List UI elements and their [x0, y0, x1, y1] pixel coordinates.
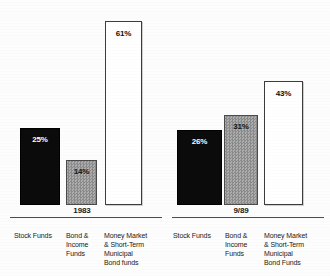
- category-label-stock-funds: Stock Funds: [173, 231, 225, 240]
- bar-989-stock-funds[interactable]: 26%: [177, 130, 222, 205]
- bar-1983-money-market-municipal[interactable]: 61%: [105, 21, 142, 205]
- bar-1983-stock-funds[interactable]: 25%: [20, 128, 60, 205]
- axis-baseline-989: [172, 217, 324, 218]
- axis-baseline-1983: [10, 217, 162, 218]
- chart-panel-1983: 25% 14% 61% 1983 Stock Funds Bond & Inco…: [0, 0, 168, 276]
- period-label-989: 9/89: [215, 206, 267, 215]
- bar-value-label: 14%: [67, 167, 96, 176]
- bar-989-money-market-municipal[interactable]: 43%: [264, 81, 303, 205]
- chart-panel-989: 26% 31% 43% 9/89 Stock Funds Bond & Inco…: [168, 0, 330, 276]
- bar-chart: 25% 14% 61% 1983 Stock Funds Bond & Inco…: [0, 0, 330, 276]
- bar-value-label: 26%: [178, 137, 221, 146]
- category-label-money-market-municipal: Money Market & Short-Term Municipal Bond…: [264, 231, 328, 267]
- bar-1983-bond-income-funds[interactable]: 14%: [66, 160, 97, 205]
- period-label-1983: 1983: [56, 206, 108, 215]
- category-label-bond-income-funds: Bond & Income Funds: [225, 231, 269, 258]
- bar-value-label: 31%: [225, 122, 257, 131]
- category-label-stock-funds: Stock Funds: [14, 231, 66, 240]
- category-label-money-market-municipal: Money Market & Short-Term Municipal Bond…: [104, 231, 166, 267]
- bar-989-bond-income-funds[interactable]: 31%: [224, 115, 258, 205]
- bar-value-label: 61%: [106, 29, 141, 38]
- bar-value-label: 43%: [265, 89, 302, 98]
- bar-value-label: 25%: [21, 135, 59, 144]
